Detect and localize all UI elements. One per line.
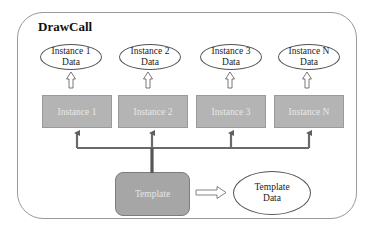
connector-layer — [0, 0, 375, 232]
right-arrow-icon — [196, 187, 226, 199]
up-arrow-icon — [67, 72, 312, 88]
